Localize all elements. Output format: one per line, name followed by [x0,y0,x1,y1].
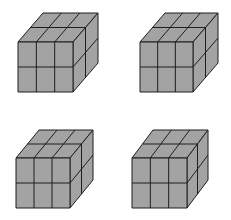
cube-1 [18,13,98,92]
cube-4 [132,130,208,208]
cube-3 [16,130,93,208]
cuboid-diagram [0,0,231,220]
cube-2 [140,13,218,92]
